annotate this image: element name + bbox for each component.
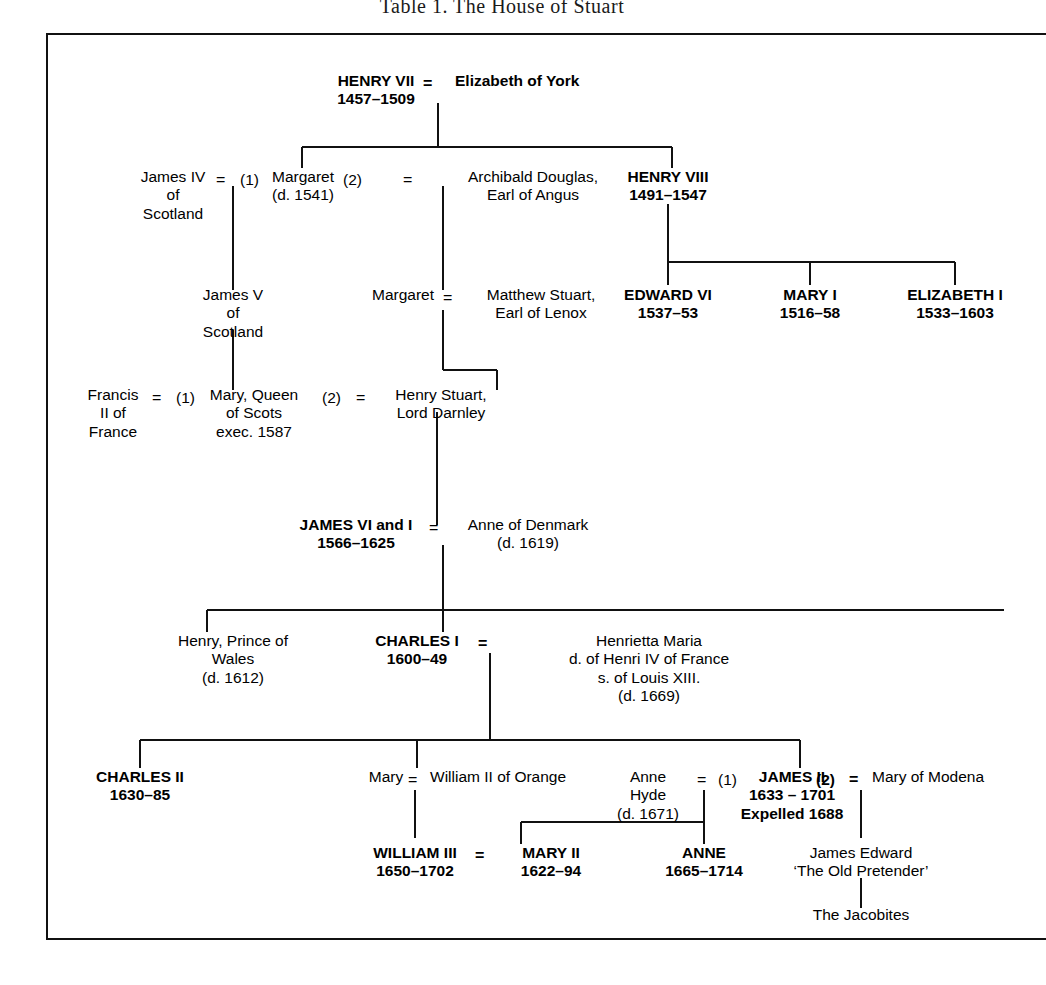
node-william-iii: WILLIAM III 1650–1702 — [373, 844, 457, 881]
person-name: Francis — [88, 386, 139, 404]
person-dates: 1665–1714 — [665, 862, 743, 880]
person-name: HENRY VIII — [628, 168, 709, 186]
person-name: Elizabeth of York — [455, 72, 579, 90]
person-name: EDWARD VI — [624, 286, 712, 304]
node-elizabeth-of-york: Elizabeth of York — [455, 72, 579, 90]
person-dates: 1650–1702 — [373, 862, 457, 880]
marriage-symbol: = — [478, 636, 487, 652]
node-anne-hyde: Anne Hyde (d. 1671) — [617, 768, 679, 823]
person-name: Archibald Douglas, — [468, 168, 598, 186]
person-line3: (d. 1671) — [617, 805, 679, 823]
person-name: Mary, Queen — [210, 386, 298, 404]
person-line3: s. of Louis XIII. — [569, 669, 729, 687]
second-marriage-label: (2) — [816, 772, 835, 788]
second-marriage-label: (2) — [343, 172, 362, 188]
person-name: WILLIAM III — [373, 844, 457, 862]
node-mary-of-modena: Mary of Modena — [872, 768, 984, 786]
person-name: Anne — [617, 768, 679, 786]
person-line2: II of — [88, 404, 139, 422]
person-line2: Lord Darnley — [395, 404, 486, 422]
person-name: Henry, Prince of — [178, 632, 288, 650]
marriage-symbol: = — [408, 772, 417, 788]
node-james-vi-and-i: JAMES VI and I 1566–1625 — [300, 516, 413, 553]
node-charles-i: CHARLES I 1600–49 — [375, 632, 459, 669]
person-dates: 1533–1603 — [907, 304, 1003, 322]
node-mary-ii: MARY II 1622–94 — [521, 844, 581, 881]
person-line2: Wales — [178, 650, 288, 668]
first-marriage-label: (1) — [240, 172, 259, 188]
node-matthew-stuart: Matthew Stuart, Earl of Lenox — [487, 286, 596, 323]
person-name: HENRY VII — [337, 72, 415, 90]
person-name: CHARLES I — [375, 632, 459, 650]
person-name: ANNE — [665, 844, 743, 862]
person-name: MARY I — [780, 286, 840, 304]
person-dates: (d. 1541) — [272, 186, 334, 204]
person-line2: of Scots — [210, 404, 298, 422]
first-marriage-label: (1) — [176, 390, 195, 406]
person-dates: 1566–1625 — [300, 534, 413, 552]
person-line2: d. of Henri IV of France — [569, 650, 729, 668]
person-name: Margaret — [372, 286, 434, 304]
person-line2: ‘The Old Pretender’ — [794, 862, 929, 880]
node-henrietta-maria: Henrietta Maria d. of Henri IV of France… — [569, 632, 729, 705]
person-name: James Edward — [794, 844, 929, 862]
marriage-symbol: = — [697, 772, 706, 788]
node-mary-i: MARY I 1516–58 — [780, 286, 840, 323]
node-mary-stuart: Mary — [369, 768, 403, 786]
marriage-symbol: = — [429, 520, 438, 536]
node-henry-vii: HENRY VII 1457–1509 — [337, 72, 415, 109]
marriage-symbol: = — [423, 76, 432, 92]
person-dates: 1600–49 — [375, 650, 459, 668]
person-name: Matthew Stuart, — [487, 286, 596, 304]
person-name: ELIZABETH I — [907, 286, 1003, 304]
person-line3: France — [88, 423, 139, 441]
person-dates: 1633 – 1701 — [741, 786, 844, 804]
person-dates: 1630–85 — [96, 786, 184, 804]
person-dates: (d. 1619) — [468, 534, 589, 552]
node-edward-vi: EDWARD VI 1537–53 — [624, 286, 712, 323]
person-name: Mary of Modena — [872, 768, 984, 786]
person-name: Margaret — [272, 168, 334, 186]
person-line2: of — [203, 304, 263, 322]
node-francis-ii: Francis II of France — [88, 386, 139, 441]
node-james-v: James V of Scotland — [203, 286, 263, 341]
person-name: The Jacobites — [813, 906, 910, 924]
person-dates: 1457–1509 — [337, 90, 415, 108]
first-marriage-label: (1) — [718, 772, 737, 788]
person-name: James V — [203, 286, 263, 304]
node-henry-stuart-darnley: Henry Stuart, Lord Darnley — [395, 386, 486, 423]
person-name: Anne of Denmark — [468, 516, 589, 534]
person-dates: 1491–1547 — [628, 186, 709, 204]
node-margaret-douglas: Margaret — [372, 286, 434, 304]
person-name: William II of Orange — [430, 768, 566, 786]
person-name: Mary — [369, 768, 403, 786]
second-marriage-label: (2) — [322, 390, 341, 406]
person-dates: 1516–58 — [780, 304, 840, 322]
marriage-symbol: = — [849, 772, 858, 788]
person-name: Henry Stuart, — [395, 386, 486, 404]
node-charles-ii: CHARLES II 1630–85 — [96, 768, 184, 805]
person-dates: 1537–53 — [624, 304, 712, 322]
node-anne: ANNE 1665–1714 — [665, 844, 743, 881]
marriage-symbol: = — [356, 390, 365, 406]
person-name: James IV — [141, 168, 206, 186]
marriage-symbol: = — [403, 172, 412, 188]
person-line2: Earl of Lenox — [487, 304, 596, 322]
person-line2: of — [141, 186, 206, 204]
person-name: CHARLES II — [96, 768, 184, 786]
marriage-symbol: = — [475, 848, 484, 864]
node-henry-prince-of-wales: Henry, Prince of Wales (d. 1612) — [178, 632, 288, 687]
node-william-ii-of-orange: William II of Orange — [430, 768, 566, 786]
person-name: MARY II — [521, 844, 581, 862]
node-margaret-tudor: Margaret (d. 1541) — [272, 168, 334, 205]
node-archibald-douglas: Archibald Douglas, Earl of Angus — [468, 168, 598, 205]
page-title: Table 1. The House of Stuart — [0, 0, 1004, 17]
person-line3: Scotland — [203, 323, 263, 341]
node-henry-viii: HENRY VIII 1491–1547 — [628, 168, 709, 205]
node-mary-queen-of-scots: Mary, Queen of Scots exec. 1587 — [210, 386, 298, 441]
person-line2: Earl of Angus — [468, 186, 598, 204]
person-dates: 1622–94 — [521, 862, 581, 880]
person-note: Expelled 1688 — [741, 805, 844, 823]
marriage-symbol: = — [216, 172, 225, 188]
node-james-iv: James IV of Scotland — [141, 168, 206, 223]
